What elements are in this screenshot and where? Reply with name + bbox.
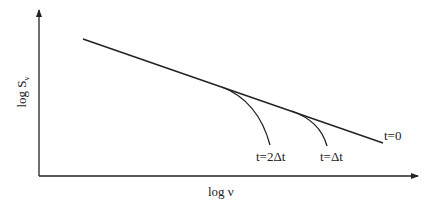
y-axis-label: log Sν (14, 76, 31, 107)
diagram-canvas: t=0 t=Δt t=2Δt log ν log Sν (0, 0, 429, 209)
x-axis-label: log ν (208, 184, 234, 199)
y-axis-label-group: log Sν (14, 76, 31, 107)
y-axis-label-main: log S (14, 80, 29, 107)
curve-t1-line (292, 111, 327, 146)
curve-t2-label: t=2Δt (256, 149, 286, 164)
spectrum-evolution-diagram: t=0 t=Δt t=2Δt log ν log Sν (0, 0, 429, 209)
y-axis-label-sub: ν (21, 76, 31, 80)
curve-t0-label: t=0 (384, 128, 401, 143)
curve-t1-label: t=Δt (320, 149, 343, 164)
curve-t0-line (83, 39, 383, 143)
